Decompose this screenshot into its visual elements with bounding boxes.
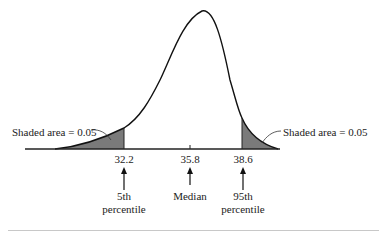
right-shaded-annotation: Shaded area = 0.05 [283,126,367,138]
right-shaded-tail [242,118,278,149]
label-median: Median [173,190,207,202]
arrow-up-icon [240,167,246,190]
label-95th-line1: 95th [233,190,253,202]
label-5th-line2: percentile [102,203,145,215]
bottom-divider [8,230,379,231]
label-5th-line1: 5th [117,190,131,202]
tick-label-5th: 32.2 [114,153,133,165]
arrow-up-icon [121,167,127,190]
tick-label-median: 35.8 [180,153,199,165]
right-leader [262,131,281,143]
arrow-up-icon [187,167,193,185]
tick-label-95th: 38.6 [233,153,252,165]
left-shaded-annotation: Shaded area = 0.05 [12,126,96,138]
label-95th-line2: percentile [221,203,264,215]
